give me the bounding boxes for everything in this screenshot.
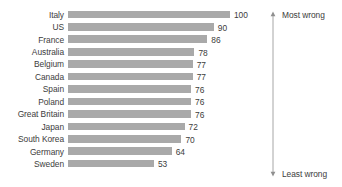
bar-track: 70 xyxy=(68,133,258,145)
category-label-great-britain: Great Britain xyxy=(0,110,68,119)
table-row: Belgium 77 xyxy=(0,59,258,71)
bar-track: 76 xyxy=(68,96,258,108)
category-label-us: US xyxy=(0,23,68,32)
value-label-france: 86 xyxy=(211,36,220,45)
category-label-south-korea: South Korea xyxy=(0,135,68,144)
table-row: Spain 76 xyxy=(0,84,258,96)
bar-italy xyxy=(68,11,230,19)
scale-label-most-wrong: Most wrong xyxy=(282,11,325,20)
bar-poland xyxy=(68,98,191,106)
table-row: Poland 76 xyxy=(0,96,258,108)
value-label-spain: 76 xyxy=(195,85,204,94)
horizontal-bar-chart: Italy 100 US 90 France 86 Australia xyxy=(0,0,342,187)
bar-track: 90 xyxy=(68,21,258,33)
category-label-poland: Poland xyxy=(0,98,68,107)
table-row: US 90 xyxy=(0,21,258,33)
table-row: Sweden 53 xyxy=(0,158,258,170)
chart-plot-area: Italy 100 US 90 France 86 Australia xyxy=(0,9,258,171)
bar-australia xyxy=(68,48,194,56)
category-label-sweden: Sweden xyxy=(0,160,68,169)
value-label-us: 90 xyxy=(218,23,227,32)
bar-track: 53 xyxy=(68,158,258,170)
table-row: Great Britain 76 xyxy=(0,109,258,121)
table-row: Italy 100 xyxy=(0,9,258,21)
bar-germany xyxy=(68,147,172,155)
bar-canada xyxy=(68,73,193,81)
value-label-poland: 76 xyxy=(195,98,204,107)
bar-track: 86 xyxy=(68,34,258,46)
category-label-italy: Italy xyxy=(0,11,68,20)
table-row: Germany 64 xyxy=(0,146,258,158)
category-label-belgium: Belgium xyxy=(0,60,68,69)
category-label-japan: Japan xyxy=(0,123,68,132)
value-label-belgium: 77 xyxy=(197,60,206,69)
category-label-france: France xyxy=(0,36,68,45)
bar-great-britain xyxy=(68,110,191,118)
table-row: France 86 xyxy=(0,34,258,46)
bar-belgium xyxy=(68,60,193,68)
bar-sweden xyxy=(68,160,154,168)
category-label-australia: Australia xyxy=(0,48,68,57)
category-label-spain: Spain xyxy=(0,85,68,94)
bar-track: 76 xyxy=(68,109,258,121)
value-label-great-britain: 76 xyxy=(195,110,204,119)
table-row: Canada 77 xyxy=(0,71,258,83)
bar-track: 77 xyxy=(68,71,258,83)
table-row: Australia 78 xyxy=(0,46,258,58)
bar-track: 78 xyxy=(68,46,258,58)
bar-france xyxy=(68,35,207,43)
value-label-south-korea: 70 xyxy=(185,135,194,144)
table-row: Japan 72 xyxy=(0,121,258,133)
value-label-italy: 100 xyxy=(234,11,248,20)
bar-south-korea xyxy=(68,135,181,143)
bar-track: 72 xyxy=(68,121,258,133)
value-label-germany: 64 xyxy=(176,148,185,157)
double-arrow-icon xyxy=(268,11,270,177)
table-row: South Korea 70 xyxy=(0,133,258,145)
value-label-australia: 78 xyxy=(198,48,207,57)
bar-spain xyxy=(68,85,191,93)
bar-track: 64 xyxy=(68,146,258,158)
value-label-canada: 77 xyxy=(197,73,206,82)
bar-track: 76 xyxy=(68,84,258,96)
value-label-japan: 72 xyxy=(189,123,198,132)
scale-label-least-wrong: Least wrong xyxy=(282,170,327,179)
category-label-canada: Canada xyxy=(0,73,68,82)
bar-track: 100 xyxy=(68,9,258,21)
bar-japan xyxy=(68,123,185,131)
value-label-sweden: 53 xyxy=(158,160,167,169)
bar-us xyxy=(68,23,214,31)
category-label-germany: Germany xyxy=(0,148,68,157)
bar-track: 77 xyxy=(68,59,258,71)
